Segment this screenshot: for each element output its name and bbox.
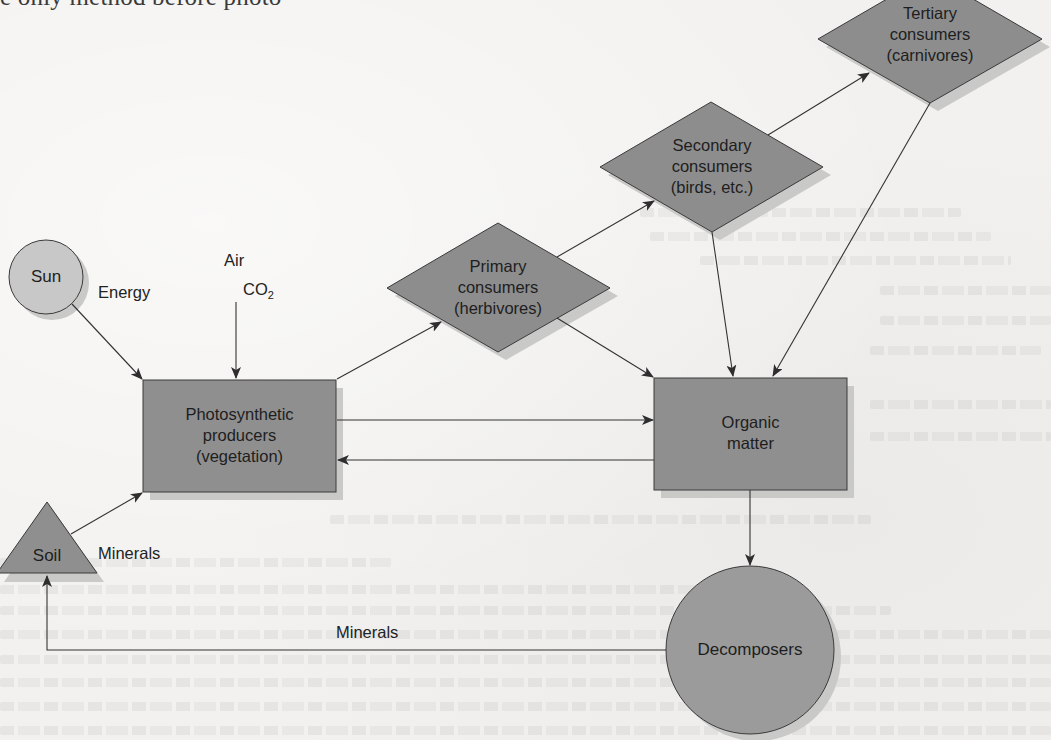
tertiary-consumers-label: Tertiary consumers (carnivores) — [850, 3, 1010, 66]
soil-label: Soil — [17, 545, 77, 566]
co2-text: CO — [243, 280, 268, 298]
arrow-primary-to-organic — [557, 318, 653, 377]
co2-subscript: 2 — [268, 289, 274, 301]
secondary-consumers-label: Secondary consumers (birds, etc.) — [632, 135, 792, 198]
energy-label: Energy — [98, 283, 150, 302]
tertiary-label-line: (carnivores) — [850, 45, 1010, 66]
producers-label: Photosynthetic producers (vegetation) — [143, 404, 336, 467]
arrow-tertiary-to-organic — [773, 103, 930, 376]
secondary-label-line: consumers — [632, 156, 792, 177]
primary-consumers-label: Primary consumers (herbivores) — [418, 256, 578, 319]
secondary-label-line: (birds, etc.) — [632, 177, 792, 198]
primary-label-line: (herbivores) — [418, 298, 578, 319]
minerals-soil-label: Minerals — [98, 544, 160, 563]
minerals-return-label: Minerals — [336, 623, 398, 642]
arrow-primary-to-secondary — [557, 201, 654, 257]
arrow-secondary-to-tertiary — [768, 73, 869, 135]
ecosystem-flow-diagram — [0, 0, 1051, 740]
arrow-producers-to-primary — [337, 322, 441, 379]
primary-label-line: Primary — [418, 256, 578, 277]
secondary-label-line: Secondary — [632, 135, 792, 156]
air-label: Air — [224, 251, 244, 270]
tertiary-label-line: Tertiary — [850, 3, 1010, 24]
organic-label-line: matter — [654, 433, 847, 454]
tertiary-label-line: consumers — [850, 24, 1010, 45]
organic-label-line: Organic — [654, 412, 847, 433]
sun-label: Sun — [9, 266, 83, 287]
node-shadows — [4, 0, 1050, 740]
producers-label-line: producers — [143, 425, 336, 446]
decomposers-label: Decomposers — [666, 639, 834, 660]
arrow-secondary-to-organic — [712, 232, 733, 376]
organic-matter-label: Organic matter — [654, 412, 847, 454]
producers-label-line: (vegetation) — [143, 446, 336, 467]
producers-label-line: Photosynthetic — [143, 404, 336, 425]
primary-label-line: consumers — [418, 277, 578, 298]
co2-label: CO2 — [243, 280, 274, 301]
arrow-soil-to-producers — [71, 493, 142, 534]
arrow-sun-to-producers — [72, 304, 142, 379]
